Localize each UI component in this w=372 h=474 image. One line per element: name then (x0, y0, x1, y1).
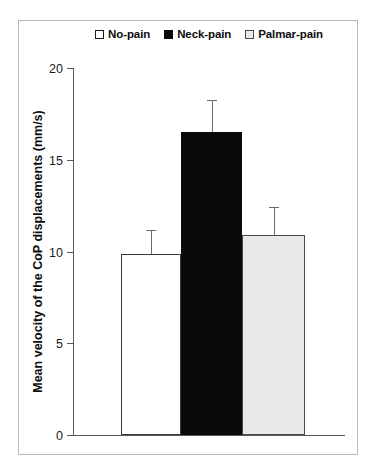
y-tick: 15 (67, 160, 73, 161)
error-bar-line (274, 207, 275, 235)
y-tick-label: 5 (56, 337, 63, 351)
y-axis-title: Mean velocity of the CoP displacements (… (27, 68, 49, 435)
legend-swatch-icon (245, 30, 254, 39)
error-bar-cap (269, 207, 279, 208)
error-bar-cap (207, 100, 217, 101)
legend-swatch-icon (95, 30, 104, 39)
error-bar-line (151, 230, 152, 254)
chart-legend: No-pain Neck-pain Palmar-pain (73, 24, 345, 44)
legend-label: Palmar-pain (258, 28, 323, 40)
bar-neck-pain (181, 132, 242, 435)
legend-item-no-pain: No-pain (95, 28, 150, 40)
legend-item-neck-pain: Neck-pain (164, 28, 231, 40)
y-tick-label: 0 (56, 429, 63, 443)
legend-label: Neck-pain (177, 28, 231, 40)
y-tick-label: 15 (49, 154, 63, 168)
x-axis-line (73, 435, 345, 436)
y-tick-label: 20 (49, 62, 63, 76)
legend-swatch-icon (164, 30, 173, 39)
y-tick: 5 (67, 343, 73, 344)
y-tick-label: 10 (49, 246, 63, 260)
figure-canvas: No-pain Neck-pain Palmar-pain Mean veloc… (0, 0, 372, 474)
bar-palmar-pain (242, 235, 305, 435)
y-axis-title-wrap: Mean velocity of the CoP displacements (… (27, 68, 49, 435)
bar-no-pain (121, 254, 181, 435)
error-bar-cap (146, 230, 156, 231)
y-tick: 20 (67, 68, 73, 69)
legend-item-palmar-pain: Palmar-pain (245, 28, 323, 40)
y-tick: 0 (67, 435, 73, 436)
y-axis-line (73, 68, 74, 435)
legend-label: No-pain (108, 28, 150, 40)
plot-area: 20151050 (73, 68, 345, 435)
y-tick: 10 (67, 252, 73, 253)
error-bar-line (212, 100, 213, 132)
